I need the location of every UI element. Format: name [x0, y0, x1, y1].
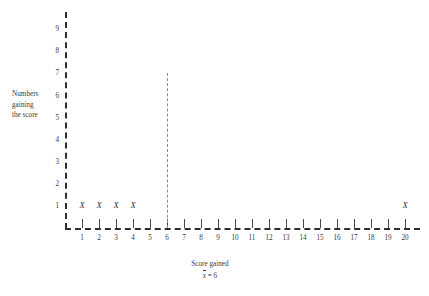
x-tick-mark	[286, 219, 287, 228]
data-point-marker: X	[399, 201, 411, 210]
x-tick-label: 18	[363, 234, 379, 242]
x-tick-mark	[150, 219, 151, 228]
y-tick-label: 9	[45, 25, 59, 33]
x-tick-label: 12	[261, 234, 277, 242]
x-axis-line	[65, 228, 420, 230]
y-tick-label: 6	[45, 92, 59, 100]
data-point-marker: X	[93, 201, 105, 210]
x-tick-mark	[388, 219, 389, 228]
x-tick-label: 6	[159, 234, 175, 242]
x-tick-mark	[82, 219, 83, 228]
x-tick-label: 2	[91, 234, 107, 242]
data-point-marker: X	[127, 201, 139, 210]
y-tick-label: 4	[45, 136, 59, 144]
x-tick-mark	[133, 219, 134, 228]
x-tick-mark	[218, 219, 219, 228]
mean-annotation: x = 6	[150, 270, 270, 281]
x-tick-mark	[337, 219, 338, 228]
x-tick-mark	[303, 219, 304, 228]
y-tick-label: 8	[45, 47, 59, 55]
x-tick-label: 1	[74, 234, 90, 242]
x-axis-title: Score gained	[150, 259, 270, 269]
x-tick-label: 14	[295, 234, 311, 242]
x-tick-label: 3	[108, 234, 124, 242]
mean-value-text: = 6	[206, 272, 217, 280]
x-tick-label: 7	[176, 234, 192, 242]
y-tick-label: 2	[45, 180, 59, 188]
x-tick-label: 16	[329, 234, 345, 242]
x-tick-label: 8	[193, 234, 209, 242]
x-tick-label: 4	[125, 234, 141, 242]
x-tick-label: 19	[380, 234, 396, 242]
y-tick-label: 5	[45, 114, 59, 122]
x-tick-mark	[252, 219, 253, 228]
data-point-marker: X	[76, 201, 88, 210]
y-axis-line	[65, 12, 67, 229]
y-axis-title-line-2: gaining	[12, 100, 60, 111]
x-tick-mark	[99, 219, 100, 228]
x-tick-mark	[235, 219, 236, 228]
x-tick-mark	[116, 219, 117, 228]
x-tick-mark	[320, 219, 321, 228]
x-tick-mark	[354, 219, 355, 228]
x-tick-label: 17	[346, 234, 362, 242]
y-tick-label: 3	[45, 158, 59, 166]
x-tick-mark	[184, 219, 185, 228]
score-distribution-chart: Numbers gaining the score Score gained x…	[0, 0, 429, 296]
x-tick-label: 9	[210, 234, 226, 242]
y-tick-label: 7	[45, 69, 59, 77]
x-tick-label: 5	[142, 234, 158, 242]
mean-reference-line	[167, 73, 168, 228]
data-point-marker: X	[110, 201, 122, 210]
x-tick-mark	[371, 219, 372, 228]
x-tick-label: 11	[244, 234, 260, 242]
y-tick-label: 1	[45, 202, 59, 210]
x-tick-mark	[269, 219, 270, 228]
x-tick-label: 10	[227, 234, 243, 242]
x-tick-label: 13	[278, 234, 294, 242]
x-tick-label: 20	[397, 234, 413, 242]
x-tick-mark	[201, 219, 202, 228]
x-tick-mark	[405, 219, 406, 228]
x-tick-label: 15	[312, 234, 328, 242]
